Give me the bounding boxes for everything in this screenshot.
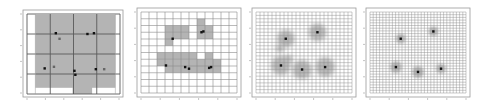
panel-svg: [360, 0, 480, 105]
panel-level-2: [130, 0, 250, 105]
shaded-cell: [197, 19, 205, 26]
shaded-cell: [165, 53, 173, 60]
panel-level-1: [20, 0, 140, 105]
shaded-cell: [213, 66, 221, 73]
panel-svg: [20, 0, 140, 105]
shaded-cell: [197, 66, 205, 73]
shaded-cell: [205, 32, 213, 39]
sample-point: [103, 68, 105, 70]
shaded-cell: [157, 59, 165, 66]
shaded-cell: [189, 53, 197, 60]
sample-point: [74, 74, 76, 76]
sample-point: [210, 66, 212, 68]
sample-point: [184, 66, 186, 68]
panel-svg: [245, 0, 365, 105]
sample-point: [171, 38, 173, 40]
sample-point: [202, 30, 204, 32]
sample-point: [188, 68, 190, 70]
shaded-region: [73, 86, 93, 94]
sample-point: [285, 38, 287, 40]
shaded-region: [35, 15, 115, 88]
shaded-cell: [181, 26, 189, 33]
sample-point: [43, 67, 45, 69]
sample-point: [280, 64, 282, 66]
refined-region: [285, 55, 293, 63]
shaded-cell: [157, 53, 165, 60]
shaded-cell: [173, 59, 181, 66]
shaded-cell: [173, 26, 181, 33]
shaded-cell: [181, 53, 189, 60]
panel-level-3: [245, 0, 365, 105]
sample-point: [316, 31, 318, 33]
sample-point: [93, 32, 95, 34]
panel-level-4: [360, 0, 480, 105]
sample-point: [165, 64, 167, 66]
shaded-cell: [213, 59, 221, 66]
shaded-cell: [165, 66, 173, 73]
shaded-cell: [189, 59, 197, 66]
sample-point: [324, 66, 326, 68]
sample-point: [432, 30, 434, 32]
shaded-cell: [181, 32, 189, 39]
shaded-cell: [173, 53, 181, 60]
shaded-cell: [205, 26, 213, 33]
shaded-cell: [197, 59, 205, 66]
shaded-cell: [173, 32, 181, 39]
sample-point: [86, 33, 88, 35]
sample-point: [301, 68, 303, 70]
sample-point: [73, 70, 75, 72]
sample-point: [395, 66, 397, 68]
shaded-cell: [205, 53, 213, 60]
sample-point: [400, 38, 402, 40]
sample-point: [95, 68, 97, 70]
shaded-cell: [165, 26, 173, 33]
sample-point: [417, 71, 419, 73]
shaded-cell: [181, 59, 189, 66]
shaded-cell: [165, 39, 173, 46]
sample-point: [53, 66, 55, 68]
panel-svg: [130, 0, 250, 105]
sample-point: [55, 32, 57, 34]
sample-point: [440, 68, 442, 70]
shaded-cell: [173, 66, 181, 73]
shaded-cell: [205, 59, 213, 66]
sample-point: [58, 38, 60, 40]
